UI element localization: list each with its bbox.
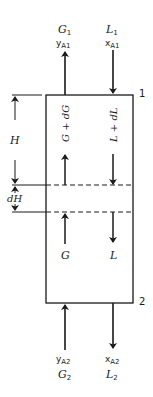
liquid-out-flow-label: L2 bbox=[105, 368, 118, 382]
height-label: H bbox=[9, 134, 20, 147]
inner-liquid-lower-label: L bbox=[109, 249, 117, 262]
liquid-in-flow-label: L1 bbox=[105, 23, 118, 37]
liquid-in-comp-label: xA1 bbox=[105, 38, 120, 50]
liquid-out-comp-label: xA2 bbox=[105, 354, 120, 366]
gas-out-comp-label: yA1 bbox=[56, 38, 71, 50]
gas-out-flow-label: G1 bbox=[58, 23, 71, 37]
column-diagram: H dH 1 2 G1 yA1 L1 xA1 G + dG L + dL G L… bbox=[0, 0, 153, 397]
section-marker-2: 2 bbox=[139, 296, 145, 307]
diff-height-label: dH bbox=[7, 193, 22, 204]
inner-liquid-upper-label: L + dL bbox=[108, 107, 119, 143]
gas-in-comp-label: yA2 bbox=[56, 354, 71, 366]
inner-gas-lower-label: G bbox=[61, 249, 70, 262]
inner-gas-upper-label: G + dG bbox=[60, 105, 71, 142]
section-marker-1: 1 bbox=[139, 88, 145, 99]
gas-in-flow-label: G2 bbox=[58, 368, 71, 382]
